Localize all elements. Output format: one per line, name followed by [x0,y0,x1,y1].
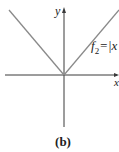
function-rhs: =|x [99,38,117,53]
left-branch [9,10,64,75]
figure-caption: (b) [0,134,119,150]
y-axis-label: y [55,4,60,19]
y-axis-arrow-icon [62,7,66,13]
x-axis-label: x [114,76,119,88]
function-label: f2=|x [91,38,117,56]
abs-value-graph [0,0,119,152]
